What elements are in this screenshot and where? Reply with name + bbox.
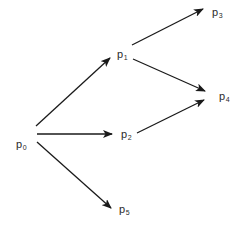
edges-layer — [0, 0, 238, 228]
edge-p2-to-p4-arrow — [137, 100, 204, 133]
node-label-subscript: 4 — [226, 96, 230, 103]
node-p0: p0 — [16, 139, 27, 151]
node-p5: p5 — [119, 204, 130, 216]
node-p1: p1 — [117, 49, 128, 61]
node-label-subscript: 0 — [23, 144, 27, 151]
node-label-subscript: 2 — [128, 134, 132, 141]
node-label-base: p — [16, 138, 22, 150]
node-label-base: p — [212, 6, 218, 18]
node-label-base: p — [121, 128, 127, 140]
directed-graph: p0p1p2p3p4p5 — [0, 0, 238, 228]
node-label-base: p — [219, 90, 225, 102]
edge-p0-to-p1-arrow — [36, 58, 110, 126]
edge-p1-to-p3-arrow — [132, 9, 203, 45]
node-label-subscript: 1 — [124, 54, 128, 61]
node-p2: p2 — [121, 129, 132, 141]
node-label-subscript: 3 — [219, 12, 223, 19]
node-label-base: p — [117, 48, 123, 60]
node-label-base: p — [119, 203, 125, 215]
edge-p0-to-p5-arrow — [37, 142, 111, 208]
edge-p1-to-p4-arrow — [133, 59, 205, 91]
node-label-subscript: 5 — [126, 209, 130, 216]
node-p4: p4 — [219, 91, 230, 103]
node-p3: p3 — [212, 7, 223, 19]
